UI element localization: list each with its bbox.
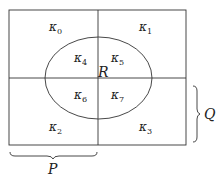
cell-k6: κ6: [73, 88, 87, 104]
cell-k2: κ2: [48, 120, 62, 136]
venn-karnaugh-diagram: κ0 κ1 κ4 κ5 κ6 κ7 κ2 κ3 R Q P: [0, 0, 219, 185]
cell-k1: κ1: [138, 20, 152, 36]
brace-p-icon: [10, 152, 97, 159]
cell-k3: κ3: [138, 120, 152, 136]
label-r: R: [97, 64, 109, 80]
label-q: Q: [204, 106, 216, 122]
brace-q-icon: [193, 86, 200, 142]
label-p: P: [47, 161, 58, 177]
cell-k5: κ5: [110, 51, 124, 67]
cell-k4: κ4: [73, 51, 87, 67]
cell-k7: κ7: [110, 88, 124, 104]
cell-k0: κ0: [48, 20, 62, 36]
